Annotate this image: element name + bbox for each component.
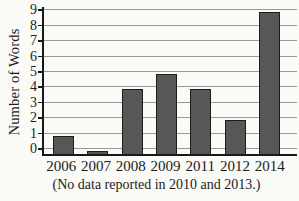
y-tick-label-4: 4 [12, 80, 37, 94]
bar-column-2009 [149, 7, 183, 154]
y-tick-label-9: 9 [12, 3, 37, 17]
bar-column-2014 [253, 7, 287, 154]
bars-row [44, 7, 297, 154]
bar-column-2012 [218, 7, 252, 154]
bar-column-2011 [184, 7, 218, 154]
x-tick-label-2011: 2011 [183, 158, 218, 175]
y-tick-label-5: 5 [12, 65, 37, 79]
bar-column-2007 [80, 7, 114, 154]
x-tick-label-2007: 2007 [79, 158, 114, 175]
x-tick-label-2012: 2012 [218, 158, 253, 175]
caption: (No data reported in 2010 and 2013.) [0, 177, 299, 193]
plot-area: 0123456789 [42, 7, 297, 156]
y-tick-label-6: 6 [12, 50, 37, 64]
bar-2007 [87, 151, 108, 154]
bar-2008 [122, 89, 143, 154]
y-tick-label-0: 0 [12, 142, 37, 156]
bar-column-2008 [115, 7, 149, 154]
bar-2011 [190, 89, 211, 154]
y-tick-label-8: 8 [12, 19, 37, 33]
bar-column-2006 [46, 7, 80, 154]
y-tick-label-2: 2 [12, 111, 37, 125]
bar-2009 [156, 74, 177, 154]
x-tick-label-2014: 2014 [252, 158, 287, 175]
x-tick-label-2008: 2008 [113, 158, 148, 175]
bar-2006 [53, 136, 74, 154]
bar-2014 [259, 12, 280, 154]
x-axis-labels: 2006200720082009201120122014 [42, 158, 297, 175]
y-tick-label-3: 3 [12, 96, 37, 110]
y-tick-label-1: 1 [12, 127, 37, 141]
y-tick-label-7: 7 [12, 34, 37, 48]
bar-chart-figure: Number of Words 0123456789 2006200720082… [0, 0, 299, 201]
bar-2012 [225, 120, 246, 154]
x-tick-label-2006: 2006 [44, 158, 79, 175]
x-tick-label-2009: 2009 [148, 158, 183, 175]
